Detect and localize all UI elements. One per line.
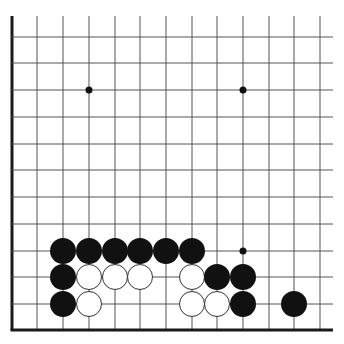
black-stone bbox=[50, 238, 76, 264]
white-stone bbox=[180, 265, 205, 290]
white-stone bbox=[180, 292, 205, 317]
white-stone bbox=[128, 265, 153, 290]
go-board bbox=[0, 0, 344, 344]
star-point bbox=[240, 87, 247, 94]
black-stone bbox=[281, 291, 307, 317]
white-stone bbox=[77, 265, 102, 290]
white-stone bbox=[205, 292, 230, 317]
black-stone bbox=[102, 238, 128, 264]
star-point bbox=[86, 87, 93, 94]
black-stone bbox=[50, 264, 76, 290]
black-stone bbox=[76, 238, 102, 264]
black-stone bbox=[50, 291, 76, 317]
black-stone bbox=[230, 264, 256, 290]
black-stone bbox=[179, 238, 205, 264]
white-stone bbox=[103, 265, 128, 290]
black-stone bbox=[153, 238, 179, 264]
black-stone bbox=[204, 264, 230, 290]
black-stone bbox=[230, 291, 256, 317]
star-point bbox=[240, 248, 247, 255]
black-stone bbox=[127, 238, 153, 264]
white-stone bbox=[77, 292, 102, 317]
